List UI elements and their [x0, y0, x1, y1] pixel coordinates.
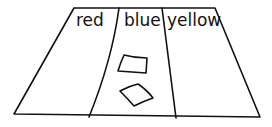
- paper-piece-lower: [120, 84, 153, 106]
- column-label-blue: blue: [124, 12, 161, 29]
- sorting-mat-diagram: red blue yellow: [0, 0, 272, 127]
- column-label-yellow: yellow: [167, 12, 221, 29]
- paper-piece-upper: [118, 55, 147, 73]
- column-label-red: red: [76, 12, 104, 29]
